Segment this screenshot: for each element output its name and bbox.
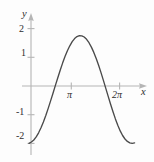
- x-tick-label-pi: π: [67, 90, 72, 100]
- y-axis: [28, 13, 34, 155]
- y-tick-label-neg-2: -2: [16, 131, 24, 141]
- y-tick-label-2: 2: [19, 24, 24, 34]
- x-tick-label-two-pi: 2π: [112, 90, 122, 100]
- y-tick-label-1: 1: [21, 48, 26, 58]
- y-axis-label: y: [22, 9, 27, 20]
- x-axis-label: x: [141, 87, 146, 98]
- x-axis: [22, 83, 147, 89]
- function-graph-figure: 2 1 -1 -2 π 2π y x: [0, 0, 154, 162]
- y-tick-label-neg-1: -1: [16, 107, 24, 117]
